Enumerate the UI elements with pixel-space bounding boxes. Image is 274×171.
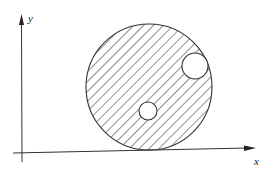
diagram-svg — [0, 0, 274, 171]
diagram-canvas: y x — [0, 0, 274, 171]
x-axis-label: x — [254, 156, 259, 167]
x-axis-arrowhead-icon — [244, 146, 256, 152]
hatched-region — [86, 24, 212, 150]
y-axis-arrowhead-icon — [19, 14, 24, 25]
lower-hole — [139, 102, 157, 120]
upper-right-hole — [182, 53, 208, 79]
y-axis — [19, 14, 24, 162]
y-axis-label: y — [28, 13, 33, 24]
